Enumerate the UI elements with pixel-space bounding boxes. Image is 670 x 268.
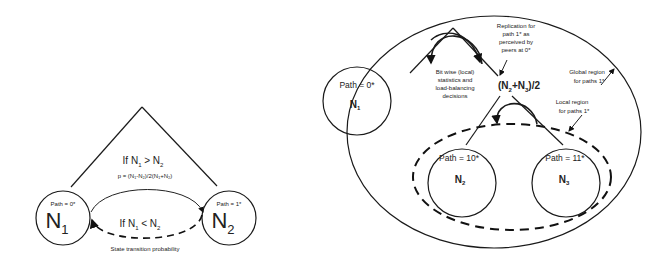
node-n2-name-right: N2 [455, 174, 466, 186]
node-n3-path-label-right: Path = 11* [545, 153, 585, 163]
global-region-note: Global region for paths 1* [569, 69, 605, 84]
svg-text:peers at 0*: peers at 0* [501, 47, 531, 53]
node-n2-name: N2 [211, 208, 234, 237]
node-n3-name-right: N3 [559, 174, 570, 186]
node-n1-circle-right [323, 67, 391, 135]
node-n1-path-label-right: Path = 0* [339, 80, 375, 90]
bitwise-note: Bit wise (local) statistics and load-bal… [435, 69, 474, 99]
svg-text:Bit wise (local): Bit wise (local) [436, 69, 475, 75]
local-region-ellipse [413, 124, 611, 230]
average-label: (N2+N3)/2 [498, 80, 540, 93]
svg-text:path 1* as: path 1* as [502, 31, 529, 37]
svg-text:Replication for: Replication for [497, 23, 535, 29]
node-n2-path-label-right: Path = 10* [439, 153, 480, 163]
right-diagram: Path = 0* N1 Path = 10* N2 Path = 11* N3… [323, 16, 641, 248]
probability-formula: p = (N₁-N₂)/2(N₁+N₂) [118, 173, 173, 179]
lower-condition-label: If N1 < N2 [120, 218, 162, 231]
svg-text:Global region: Global region [569, 69, 605, 75]
node-n1-path-label: Path = 0* [51, 201, 77, 207]
replication-pointer [500, 60, 507, 75]
local-region-note: Local region for paths 1* [556, 99, 590, 114]
node-n1-name-right: N1 [350, 99, 361, 111]
svg-text:load-balancing: load-balancing [435, 85, 474, 91]
upper-condition-label: If N1 > N2 [123, 155, 165, 168]
svg-text:decisions: decisions [442, 93, 467, 99]
global-region-ellipse [347, 16, 641, 248]
tree-edge-average-to-n2 [466, 96, 500, 145]
svg-text:Local region: Local region [556, 99, 589, 105]
bitwise-decision-arrow-right [431, 33, 480, 62]
svg-text:perceived by: perceived by [499, 39, 533, 45]
svg-text:statistics and: statistics and [438, 77, 473, 83]
svg-text:for paths 1*: for paths 1* [559, 108, 590, 114]
svg-text:for paths 1*: for paths 1* [574, 78, 605, 84]
replication-note: Replication for path 1* as perceived by … [497, 23, 535, 53]
local-region-pointer [569, 115, 582, 131]
diagram-canvas: Path = 0* N1 Path = 1* N2 If N1 > N2 p =… [0, 0, 670, 268]
left-diagram: Path = 0* N1 Path = 1* N2 If N1 > N2 p =… [36, 107, 256, 252]
caption-state-transition: State transition probability [110, 246, 179, 252]
transition-arrow-upper [91, 190, 203, 213]
node-n1-name: N1 [45, 208, 68, 237]
tree-edge-root-to-n1 [410, 28, 453, 73]
node-n2-path-label: Path = 1* [217, 201, 243, 207]
